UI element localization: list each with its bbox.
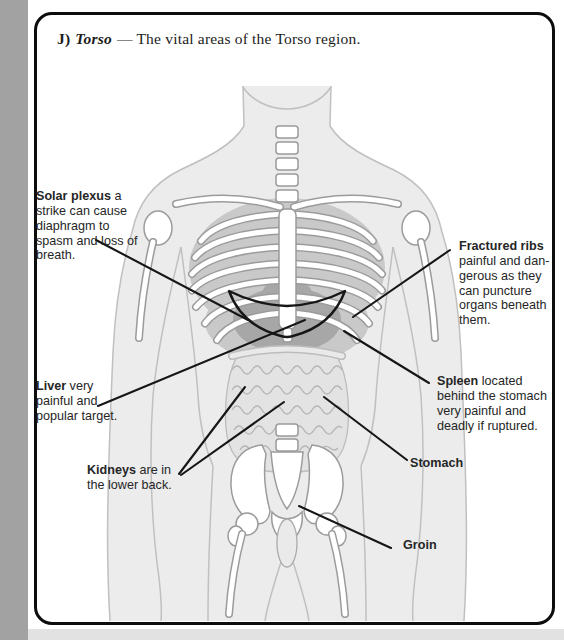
label-solar-plexus: Solar plexus a strike can cause diaphrag… <box>36 189 158 263</box>
label-fractured-ribs: Fractured ribs painful and dan- gerous a… <box>459 239 553 328</box>
title-index: J) <box>57 30 70 47</box>
label-term: Kidneys <box>87 463 136 477</box>
label-term: Stomach <box>410 456 463 470</box>
genitals <box>277 519 297 567</box>
label-term: Fractured ribs <box>459 239 544 253</box>
label-stomach: Stomach <box>410 456 463 471</box>
label-term: Solar plexus <box>36 189 111 203</box>
humerus-head-right <box>402 211 430 245</box>
label-kidneys: Kidneys are in the lower back. <box>87 463 209 493</box>
label-spleen: Spleen located behind the stomach very p… <box>437 374 555 433</box>
label-liver: Liver very painful and popular target. <box>36 379 146 424</box>
page-title: J)Torso— The vital areas of the Torso re… <box>57 30 360 48</box>
label-groin: Groin <box>403 538 437 553</box>
title-term: Torso <box>75 30 112 47</box>
label-term: Spleen <box>437 374 478 388</box>
title-text: — The vital areas of the Torso region. <box>117 30 361 47</box>
label-term: Liver <box>36 379 66 393</box>
label-term: Groin <box>403 538 437 552</box>
label-body: painful and dan- gerous as they can punc… <box>459 254 549 327</box>
sternum <box>279 209 296 329</box>
